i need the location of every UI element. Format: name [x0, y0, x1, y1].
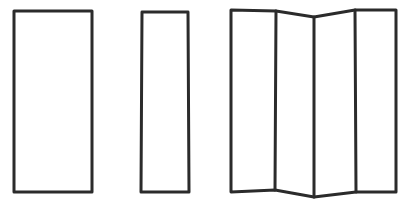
- folded-screen-fold-3: [355, 10, 356, 192]
- shape-folded-screen: [231, 10, 396, 197]
- narrow-rectangle-outline: [141, 12, 189, 192]
- wide-rectangle-outline: [14, 11, 92, 192]
- shape-wide-rectangle: [14, 11, 92, 192]
- shape-narrow-rectangle: [141, 12, 189, 192]
- figure-canvas: [0, 0, 410, 202]
- folded-screen-fold-1: [275, 11, 276, 190]
- figure-svg: [0, 0, 410, 202]
